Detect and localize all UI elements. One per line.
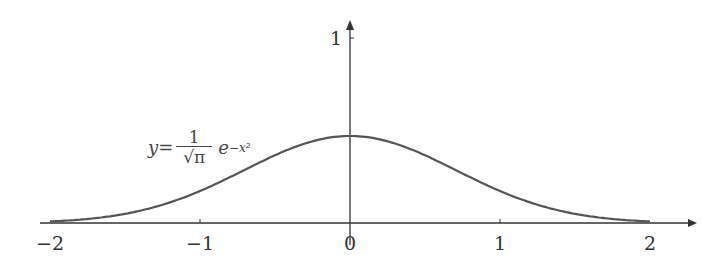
formula-exponent: −x² xyxy=(229,141,251,155)
x-tick-label: 2 xyxy=(644,232,656,254)
plot-area: −2 −1 0 1 2 1 xyxy=(0,0,702,263)
formula-lhs: y= xyxy=(148,137,173,158)
x-tick-label: −1 xyxy=(186,232,214,254)
y-tick-label: 1 xyxy=(330,27,342,49)
x-tick-label: −2 xyxy=(36,232,64,254)
x-axis-arrow-icon xyxy=(688,219,697,227)
formula-fraction: 1 √π xyxy=(176,128,212,167)
y-axis-arrow-icon xyxy=(346,20,354,30)
x-tick-label: 0 xyxy=(344,232,356,254)
formula-base: e xyxy=(218,137,229,158)
curve-annotation: y= 1 √π e−x² xyxy=(148,128,251,167)
chart: −2 −1 0 1 2 1 y= 1 √π e−x² xyxy=(0,0,702,263)
x-tick-label: 1 xyxy=(494,232,506,254)
